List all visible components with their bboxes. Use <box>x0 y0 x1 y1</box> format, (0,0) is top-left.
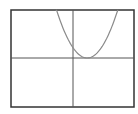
function-graph <box>0 0 138 114</box>
